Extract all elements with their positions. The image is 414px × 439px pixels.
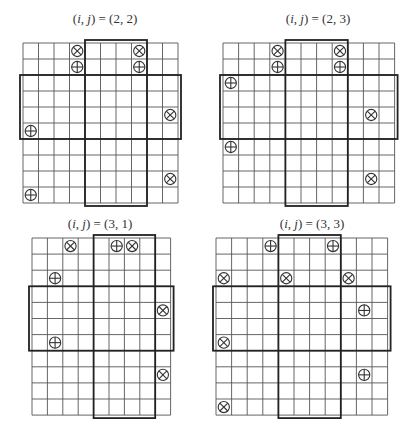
oplus-icon (359, 369, 370, 380)
otimes-icon (343, 273, 354, 284)
otimes-icon (218, 273, 229, 284)
oplus-icon (359, 305, 370, 316)
grid-svg (0, 0, 414, 439)
otimes-icon (218, 337, 229, 348)
oplus-icon (327, 240, 338, 251)
otimes-icon (281, 273, 292, 284)
otimes-icon (218, 401, 229, 412)
oplus-icon (265, 240, 276, 251)
